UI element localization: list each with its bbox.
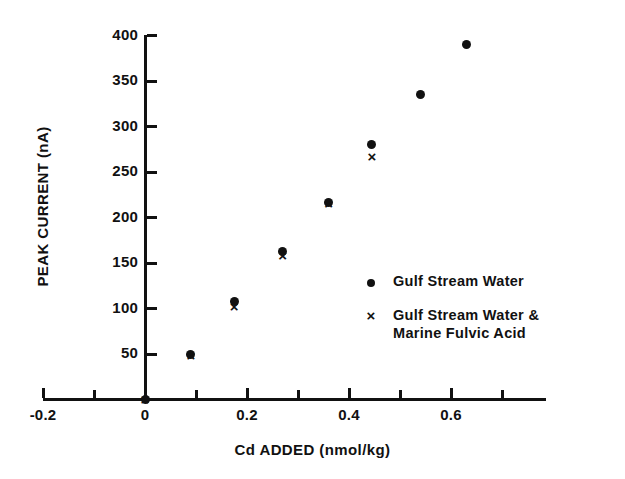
y-tick-label-200: 200: [86, 208, 138, 225]
data-point-s1-4: ×: [322, 197, 335, 210]
y-tick-350: [147, 80, 157, 83]
y-tick-50: [147, 353, 157, 356]
y-tick-label-350: 350: [86, 71, 138, 88]
y-tick-100: [147, 307, 157, 310]
x-tick-0.2: [246, 388, 249, 398]
data-point-s1-5: ×: [365, 150, 378, 163]
x-tick-label-0.4: 0.4: [319, 406, 379, 423]
legend-cross-marker-icon: ×: [360, 306, 382, 325]
chart-legend: Gulf Stream Water × Gulf Stream Water & …: [360, 272, 539, 358]
scatter-chart-figure: 50100150200250300350400-0.200.20.40.6 ××…: [0, 0, 625, 479]
y-axis-title: PEAK CURRENT (nA): [34, 82, 51, 332]
y-tick-label-300: 300: [86, 117, 138, 134]
x-axis-title: Cd ADDED (nmol/kg): [0, 441, 625, 458]
x-tick-label-0: 0: [115, 406, 175, 423]
y-tick-400: [147, 34, 157, 37]
y-tick-label-50: 50: [86, 344, 138, 361]
data-point-s1-1: ×: [184, 349, 197, 362]
data-point-s0-7: [462, 40, 471, 49]
y-tick-200: [147, 216, 157, 219]
y-tick-250: [147, 171, 157, 174]
x-axis-line: [43, 398, 546, 401]
legend-item-gulf-stream-water: Gulf Stream Water: [360, 272, 539, 290]
x-tick-minor: [93, 390, 96, 398]
x-tick-label--0.2: -0.2: [13, 406, 73, 423]
x-tick-0.4: [348, 388, 351, 398]
x-tick-minor: [195, 390, 198, 398]
y-tick-150: [147, 262, 157, 265]
y-tick-label-400: 400: [86, 26, 138, 43]
x-tick-label-0.6: 0.6: [421, 406, 481, 423]
y-tick-300: [147, 125, 157, 128]
legend-label-2-line2: Marine Fulvic Acid: [393, 324, 539, 342]
data-point-s1-3: ×: [276, 249, 289, 262]
legend-label-1: Gulf Stream Water: [393, 272, 539, 290]
y-tick-label-150: 150: [86, 253, 138, 270]
y-tick-label-100: 100: [86, 299, 138, 316]
legend-label-2-line1: Gulf Stream Water &: [393, 306, 539, 324]
data-point-s1-2: ×: [228, 300, 241, 313]
x-tick-label-0.2: 0.2: [217, 406, 277, 423]
legend-item-gulf-stream-water-fulvic-acid: × Gulf Stream Water & Marine Fulvic Acid: [360, 306, 539, 342]
x-tick-minor: [399, 390, 402, 398]
data-point-s0-6: [416, 90, 425, 99]
data-point-s1-0: ×: [139, 393, 152, 406]
x-tick-0.6: [450, 388, 453, 398]
legend-dot-marker-icon: [360, 272, 382, 291]
x-tick--0.2: [42, 388, 45, 398]
x-tick-minor: [501, 390, 504, 398]
y-tick-label-250: 250: [86, 162, 138, 179]
x-tick-minor: [297, 390, 300, 398]
